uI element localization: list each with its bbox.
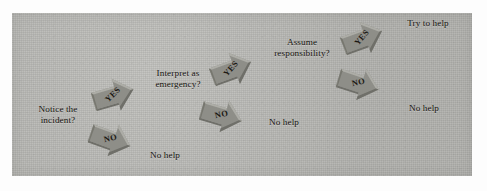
outcome-label-try-to-help: Try to help: [392, 18, 464, 29]
outcome-label-no-help-1: No help: [134, 150, 196, 161]
decision-label-interpret: Interpret as emergency?: [140, 68, 216, 89]
decision-label-responsibility: Assume responsibility?: [260, 37, 344, 58]
outcome-label-no-help-3: No help: [393, 103, 455, 114]
decision-label-notice: Notice the incident?: [22, 104, 94, 125]
figure-canvas: Notice the incident? YES NO No help Inte…: [0, 0, 487, 191]
panel-texture-overlay: [12, 13, 472, 176]
outcome-label-no-help-2: No help: [253, 117, 315, 128]
diagram-panel: [12, 13, 472, 176]
